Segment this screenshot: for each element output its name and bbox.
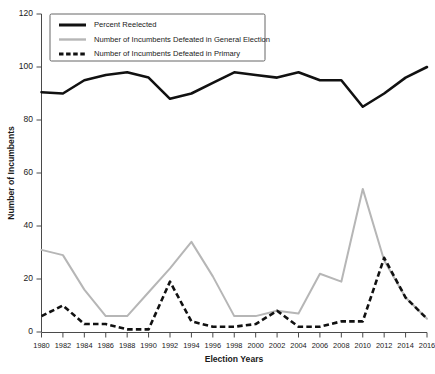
- series-lines: [42, 67, 428, 329]
- y-tick-label: 20: [24, 273, 34, 283]
- x-tick-label: 1984: [76, 341, 92, 350]
- x-tick-label: 1980: [33, 341, 49, 350]
- y-tick-label: 40: [24, 220, 34, 230]
- series-line-defeated-primary: [42, 258, 428, 330]
- x-tick-label: 2012: [376, 341, 392, 350]
- y-tick-label: 120: [19, 8, 33, 18]
- x-tick-label: 2016: [419, 341, 435, 350]
- x-tick-label: 1996: [205, 341, 221, 350]
- x-tick-label: 2008: [333, 341, 349, 350]
- line-chart: 020406080100120 Number of Incumbents 198…: [0, 0, 435, 374]
- x-tick-label: 1994: [183, 341, 199, 350]
- chart-legend: Percent ReelectedNumber of Incumbents De…: [50, 14, 270, 61]
- x-tick-label: 1998: [226, 341, 242, 350]
- x-tick-label: 1988: [119, 341, 135, 350]
- x-axis: 1980198219841986198819901992199419961998…: [33, 333, 435, 365]
- y-tick-label: 80: [24, 114, 34, 124]
- x-tick-label: 2006: [312, 341, 328, 350]
- y-tick-label: 60: [24, 167, 34, 177]
- chart-container: 020406080100120 Number of Incumbents 198…: [0, 0, 435, 374]
- x-tick-label: 1990: [140, 341, 156, 350]
- figure-caption: [0, 365, 435, 374]
- legend-item-label: Number of Incumbents Defeated in Primary: [94, 49, 240, 58]
- x-axis-title: Election Years: [205, 354, 264, 364]
- y-axis-title: Number of Incumbents: [6, 126, 16, 220]
- x-tick-label: 2004: [290, 341, 306, 350]
- legend-item-label: Number of Incumbents Defeated in General…: [94, 35, 270, 44]
- x-tick-label: 2000: [247, 341, 263, 350]
- x-tick-label: 2014: [397, 341, 413, 350]
- series-line-percent-reelected: [42, 67, 428, 107]
- y-axis: 020406080100120 Number of Incumbents: [6, 8, 42, 336]
- y-tick-label: 0: [28, 326, 33, 336]
- y-tick-label: 100: [19, 61, 33, 71]
- x-tick-label: 1986: [98, 341, 114, 350]
- x-tick-label: 2010: [355, 341, 371, 350]
- x-tick-label: 2002: [269, 341, 285, 350]
- x-tick-label: 1992: [162, 341, 178, 350]
- x-tick-label: 1982: [55, 341, 71, 350]
- legend-item-label: Percent Reelected: [94, 20, 156, 29]
